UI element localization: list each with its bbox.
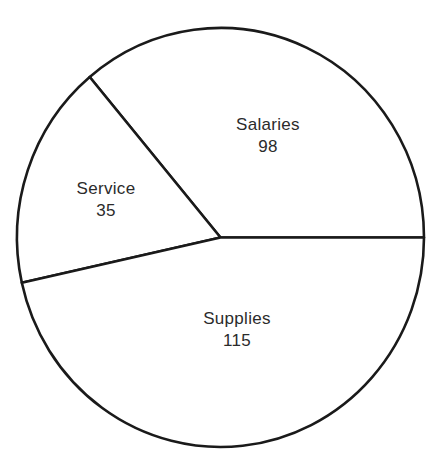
pie-chart: Salaries98Service35Supplies115 bbox=[0, 0, 444, 465]
pie-slices-group bbox=[17, 28, 424, 447]
pie-slice-label-salaries: Salaries bbox=[236, 115, 300, 134]
pie-slice-value-supplies: 115 bbox=[223, 331, 251, 350]
pie-slice-label-supplies: Supplies bbox=[203, 309, 271, 328]
pie-chart-canvas: Salaries98Service35Supplies115 bbox=[0, 0, 444, 465]
pie-slice-label-service: Service bbox=[77, 179, 136, 198]
pie-slice-value-salaries: 98 bbox=[258, 137, 278, 156]
pie-slice-value-service: 35 bbox=[96, 201, 116, 220]
